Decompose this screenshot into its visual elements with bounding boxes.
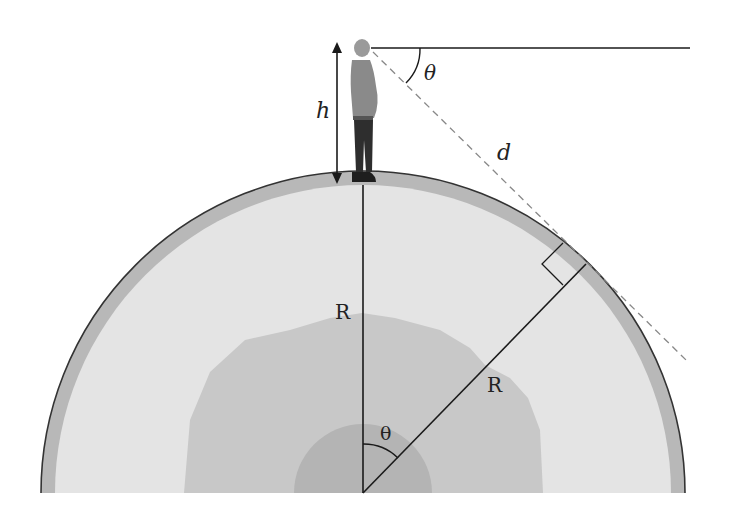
top-angle-arc xyxy=(406,48,420,83)
label-distance: d xyxy=(497,140,511,165)
label-radius-diagonal: R xyxy=(487,373,503,397)
height-arrow xyxy=(332,42,342,184)
person-figure xyxy=(351,39,378,182)
label-radius-vertical: R xyxy=(335,300,351,324)
label-angle-center: θ xyxy=(380,422,391,444)
label-angle-top: θ xyxy=(424,61,436,85)
label-height: h xyxy=(316,98,330,123)
horizon-diagram: h θ d R R θ xyxy=(0,0,731,523)
